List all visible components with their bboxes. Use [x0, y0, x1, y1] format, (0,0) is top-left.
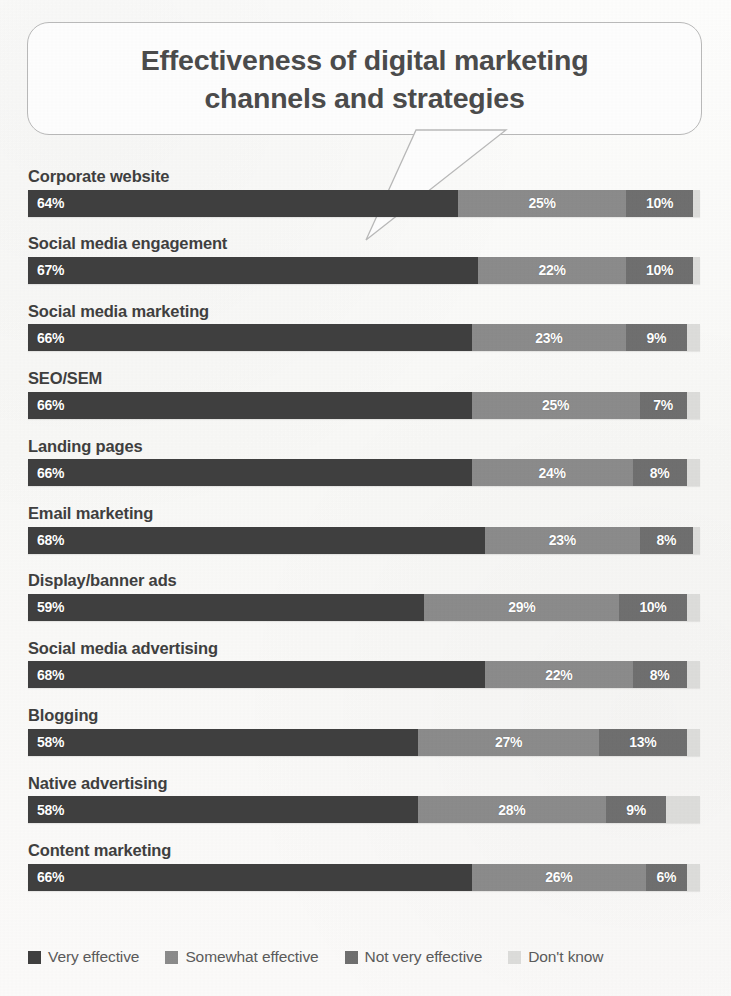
bar-segment-very-effective: 58% [28, 729, 418, 756]
bar-segment-value: 59% [37, 599, 64, 615]
legend-item-label: Very effective [48, 948, 139, 966]
bar-segment-not-very-effective: 10% [619, 594, 686, 621]
bar-segment-not-very-effective: 8% [640, 527, 694, 554]
bar-segment-somewhat-effective: 28% [418, 796, 606, 823]
legend-swatch-icon [165, 951, 178, 964]
chart-row: Corporate website64%25%10% [28, 168, 700, 217]
bar-segment-not-very-effective: 9% [606, 796, 666, 823]
bar-segment-value: 25% [529, 195, 556, 211]
bar-segment-value: 66% [37, 465, 64, 481]
bar-segment-somewhat-effective: 25% [458, 190, 626, 217]
bar-segment-value: 66% [37, 330, 64, 346]
bar-segment-value: 27% [495, 734, 522, 750]
bar-segment-value: 68% [37, 667, 64, 683]
bar-segment-don-t-know [693, 190, 700, 217]
bar-segment-value: 10% [646, 195, 673, 211]
bar-segment-don-t-know [687, 661, 700, 688]
legend-item[interactable]: Very effective [28, 948, 139, 966]
chart-row: Blogging58%27%13% [28, 707, 700, 756]
bar-segment-very-effective: 66% [28, 459, 472, 486]
bar-segment-don-t-know [693, 527, 700, 554]
chart-row-label: Content marketing [28, 842, 700, 859]
stacked-bar: 64%25%10% [28, 190, 700, 217]
bar-segment-very-effective: 66% [28, 864, 472, 891]
bar-segment-not-very-effective: 7% [640, 392, 687, 419]
bar-segment-somewhat-effective: 23% [472, 324, 627, 351]
chart-legend: Very effectiveSomewhat effectiveNot very… [28, 948, 718, 966]
bar-segment-value: 10% [646, 262, 673, 278]
bar-segment-value: 8% [657, 532, 677, 548]
bar-segment-not-very-effective: 6% [646, 864, 686, 891]
stacked-bar-chart: Corporate website64%25%10%Social media e… [0, 0, 731, 996]
chart-row-label: Display/banner ads [28, 572, 700, 589]
bar-segment-somewhat-effective: 25% [472, 392, 640, 419]
chart-row: Content marketing66%26%6% [28, 842, 700, 891]
bar-segment-very-effective: 59% [28, 594, 424, 621]
bar-segment-don-t-know [687, 392, 700, 419]
bar-segment-value: 7% [653, 397, 673, 413]
stacked-bar: 58%28%9% [28, 796, 700, 823]
stacked-bar: 58%27%13% [28, 729, 700, 756]
bar-segment-value: 8% [650, 465, 670, 481]
chart-row-label: Landing pages [28, 438, 700, 455]
bar-segment-somewhat-effective: 22% [478, 257, 626, 284]
bar-segment-not-very-effective: 10% [626, 190, 693, 217]
bar-segment-don-t-know [666, 796, 700, 823]
chart-row-label: Social media marketing [28, 303, 700, 320]
bar-segment-value: 13% [629, 734, 656, 750]
chart-row-label: Corporate website [28, 168, 700, 185]
legend-swatch-icon [345, 951, 358, 964]
stacked-bar: 59%29%10% [28, 594, 700, 621]
bar-segment-very-effective: 68% [28, 661, 485, 688]
chart-row: Social media engagement67%22%10% [28, 235, 700, 284]
bar-segment-not-very-effective: 13% [599, 729, 686, 756]
bar-segment-somewhat-effective: 22% [485, 661, 633, 688]
chart-row-label: Blogging [28, 707, 700, 724]
legend-item-label: Don't know [528, 948, 603, 966]
legend-item-label: Not very effective [365, 948, 483, 966]
legend-item[interactable]: Somewhat effective [165, 948, 318, 966]
bar-segment-value: 66% [37, 869, 64, 885]
stacked-bar: 67%22%10% [28, 257, 700, 284]
legend-item[interactable]: Not very effective [345, 948, 483, 966]
bar-segment-value: 66% [37, 397, 64, 413]
bar-segment-value: 26% [545, 869, 572, 885]
legend-swatch-icon [28, 951, 41, 964]
bar-segment-value: 22% [545, 667, 572, 683]
bar-segment-somewhat-effective: 23% [485, 527, 640, 554]
bar-segment-value: 9% [646, 330, 666, 346]
stacked-bar: 66%24%8% [28, 459, 700, 486]
bar-segment-value: 64% [37, 195, 64, 211]
bar-segment-somewhat-effective: 29% [424, 594, 619, 621]
stacked-bar: 68%22%8% [28, 661, 700, 688]
chart-row-label: Social media advertising [28, 640, 700, 657]
bar-segment-very-effective: 66% [28, 392, 472, 419]
bar-segment-don-t-know [687, 864, 700, 891]
bar-segment-very-effective: 66% [28, 324, 472, 351]
bar-segment-value: 8% [650, 667, 670, 683]
chart-row: Landing pages66%24%8% [28, 438, 700, 487]
bar-segment-value: 29% [508, 599, 535, 615]
chart-row-label: Social media engagement [28, 235, 700, 252]
bar-segment-don-t-know [687, 594, 700, 621]
bar-segment-don-t-know [687, 459, 700, 486]
legend-item[interactable]: Don't know [508, 948, 603, 966]
bar-segment-value: 23% [535, 330, 562, 346]
bar-segment-value: 10% [639, 599, 666, 615]
bar-segment-value: 58% [37, 802, 64, 818]
bar-segment-somewhat-effective: 26% [472, 864, 647, 891]
chart-row-label: SEO/SEM [28, 370, 700, 387]
bar-segment-value: 6% [657, 869, 677, 885]
bar-segment-value: 22% [539, 262, 566, 278]
bar-segment-value: 23% [549, 532, 576, 548]
bar-segment-very-effective: 58% [28, 796, 418, 823]
bar-segment-don-t-know [687, 729, 700, 756]
chart-row: Social media advertising68%22%8% [28, 640, 700, 689]
bar-segment-value: 24% [539, 465, 566, 481]
bar-segment-not-very-effective: 9% [626, 324, 686, 351]
bar-segment-value: 58% [37, 734, 64, 750]
chart-row: Display/banner ads59%29%10% [28, 572, 700, 621]
bar-segment-value: 28% [498, 802, 525, 818]
stacked-bar: 66%25%7% [28, 392, 700, 419]
bar-segment-very-effective: 67% [28, 257, 478, 284]
